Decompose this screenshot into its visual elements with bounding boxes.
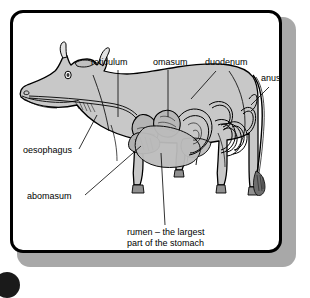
- label-rumen-line2: part of the stomach: [127, 238, 204, 248]
- label-reticulum: reticulum: [91, 57, 128, 67]
- corner-bullet-marker: [0, 272, 20, 298]
- label-omasum: omasum: [153, 57, 188, 67]
- cow-hoof-front-left: [132, 185, 144, 193]
- cow-horn-left: [60, 42, 67, 58]
- cow-digestive-diagram: reticulum omasum duodenum anus oesophagu…: [13, 13, 279, 250]
- label-rumen-line1: rumen – the largest: [127, 227, 205, 237]
- label-oesophagus: oesophagus: [23, 145, 73, 155]
- label-duodenum: duodenum: [205, 57, 248, 67]
- leader-oesophagus: [79, 115, 97, 149]
- cow-hoof-front-right: [174, 170, 184, 177]
- cow-pupil-icon: [67, 73, 70, 77]
- label-anus: anus: [261, 73, 279, 83]
- cow-tail-tuft: [253, 171, 265, 196]
- label-abomasum: abomasum: [27, 191, 72, 201]
- cow-hoof-rear-left: [216, 185, 226, 193]
- diagram-panel: reticulum omasum duodenum anus oesophagu…: [10, 10, 282, 253]
